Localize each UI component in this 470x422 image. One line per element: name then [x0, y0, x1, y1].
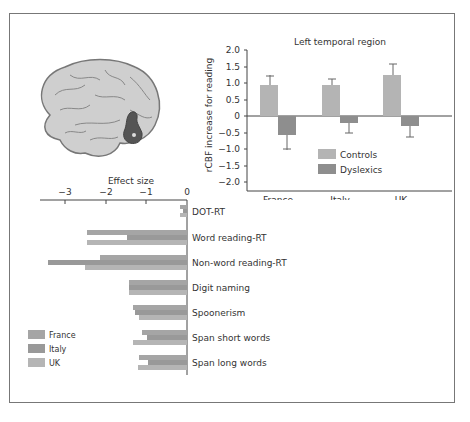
svg-text:Italy: Italy: [49, 345, 67, 354]
svg-text:Spoonerism: Spoonerism: [192, 308, 245, 318]
svg-text:UK: UK: [395, 195, 409, 200]
svg-text:Word reading-RT: Word reading-RT: [192, 233, 267, 243]
y-tick-labels: 2.0 1.5 1.0 0.5 0 −0.5 −1.0 −1.5 −2.0: [218, 45, 247, 187]
svg-text:France: France: [49, 331, 76, 340]
bar-legend: Controls Dyslexics: [318, 149, 383, 175]
svg-text:−1: −1: [139, 187, 152, 197]
bar-france-dyslexics: [278, 116, 296, 135]
svg-text:Digit naming: Digit naming: [192, 283, 250, 293]
svg-text:−1.0: −1.0: [218, 144, 240, 154]
svg-text:DOT-RT: DOT-RT: [192, 207, 226, 217]
brain-illustration: [30, 55, 165, 165]
effect-bars: [48, 205, 187, 370]
svg-text:0: 0: [234, 111, 240, 121]
category-labels: DOT-RT Word reading-RT Non-word reading-…: [192, 207, 287, 368]
svg-text:Controls: Controls: [340, 150, 378, 160]
svg-text:−0.5: −0.5: [218, 128, 240, 138]
country-legend: France Italy UK: [28, 330, 76, 368]
bar-uk-controls: [383, 75, 401, 116]
svg-text:UK: UK: [49, 359, 61, 368]
svg-text:−3: −3: [58, 187, 71, 197]
svg-text:0: 0: [184, 187, 190, 197]
x-axis-label: Effect size: [108, 176, 155, 186]
svg-text:Dyslexics: Dyslexics: [340, 165, 383, 175]
y-axis-label: rCBF increase for reading: [204, 58, 214, 172]
svg-text:Span short words: Span short words: [192, 333, 271, 343]
bar-italy-controls: [322, 85, 340, 116]
chart-title: Left temporal region: [294, 37, 386, 47]
effect-size-chart: Effect size −3 −2 −1 0: [15, 175, 335, 385]
bar-uk-dyslexics: [401, 116, 419, 126]
bar-france-controls: [260, 85, 278, 116]
svg-text:−2: −2: [99, 187, 112, 197]
svg-text:1.5: 1.5: [226, 62, 240, 72]
svg-text:−1.5: −1.5: [218, 161, 240, 171]
svg-text:0.5: 0.5: [226, 95, 240, 105]
x-tick-labels: −3 −2 −1 0: [58, 187, 190, 204]
svg-text:Span long words: Span long words: [192, 358, 267, 368]
svg-text:2.0: 2.0: [226, 45, 241, 55]
svg-text:Non-word reading-RT: Non-word reading-RT: [192, 258, 287, 268]
svg-text:1.0: 1.0: [226, 78, 241, 88]
bar-italy-dyslexics: [340, 116, 358, 123]
